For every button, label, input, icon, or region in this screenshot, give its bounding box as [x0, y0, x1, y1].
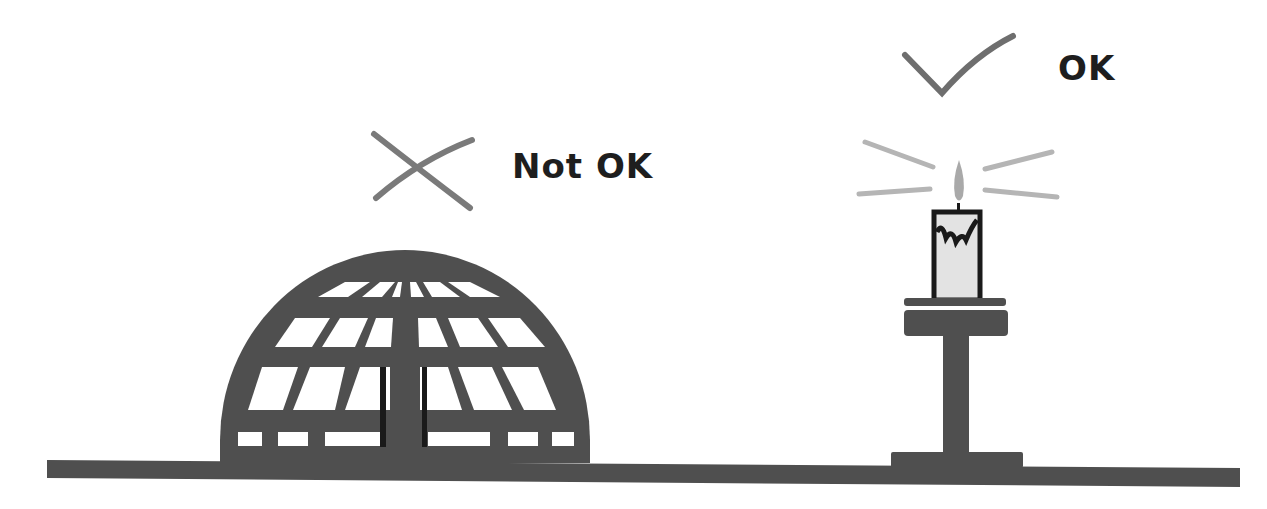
candle-stand	[891, 298, 1023, 468]
flame-icon	[954, 160, 964, 201]
floor-line	[47, 460, 1240, 487]
not-ok-label: Not OK	[512, 146, 653, 186]
check-icon	[905, 36, 1013, 93]
candle	[934, 203, 980, 300]
ok-label: OK	[1058, 48, 1115, 88]
dome-cage	[220, 250, 590, 463]
cross-icon	[374, 134, 472, 208]
